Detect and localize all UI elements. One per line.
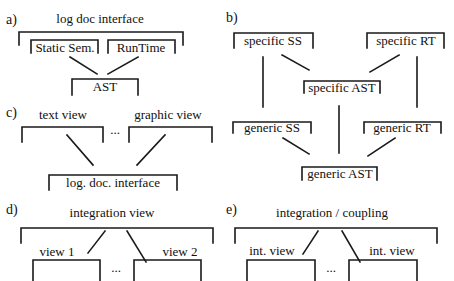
panel-e-label: e) (226, 202, 237, 218)
generic-rt-label: generic RT (373, 120, 430, 135)
view-1-label: view 1 (39, 244, 74, 259)
panel-b: b) specific SS specific RT specific AST … (226, 10, 444, 181)
view-2-label: view 2 (162, 244, 197, 259)
ellipsis: ... (111, 260, 121, 275)
specific-rt-label: specific RT (376, 33, 436, 48)
panel-c: c) text view ... graphic view log. doc. … (6, 105, 212, 190)
connector-line (342, 231, 360, 262)
graphic-view-label: graphic view (134, 107, 202, 122)
connector-line (370, 55, 399, 72)
panel-a: a) log doc interface Static Sem. RunTime… (6, 11, 183, 95)
int-view-1-bracket (247, 260, 315, 281)
panel-a-label: a) (6, 12, 17, 28)
panel-b-label: b) (226, 10, 238, 26)
ellipsis: ... (110, 122, 120, 137)
panel-c-label: c) (6, 105, 17, 121)
runtime-label: RunTime (117, 40, 166, 55)
log-doc-interface-label: log doc interface (56, 11, 144, 26)
integration-coupling-bracket (235, 228, 437, 243)
view-1-bracket (33, 260, 100, 281)
int-view-2-bracket (349, 260, 417, 281)
integration-view-label: integration view (70, 205, 155, 220)
integration-coupling-label: integration / coupling (276, 205, 388, 220)
connector-line (282, 55, 309, 70)
text-view-label: text view (39, 107, 88, 122)
panel-e: e) integration / coupling int. view ... … (226, 202, 437, 281)
ellipsis: ... (326, 260, 336, 275)
connector-line (70, 57, 97, 74)
specific-ast-label: specific AST (308, 80, 376, 95)
layered-architecture-diagram: a) log doc interface Static Sem. RunTime… (0, 0, 454, 281)
generic-ss-label: generic SS (244, 120, 300, 135)
panel-d: d) integration view view 1 ... view 2 (6, 202, 213, 281)
graphic-view-bracket (129, 127, 212, 142)
connector-line (127, 231, 146, 262)
int-view-1-label: int. view (249, 243, 295, 258)
connector-line (108, 57, 138, 74)
view-2-bracket (134, 260, 201, 281)
connector-line (283, 138, 309, 154)
int-view-2-label: int. view (369, 243, 415, 258)
static-sem-label: Static Sem. (35, 40, 94, 55)
connector-line (368, 138, 395, 156)
ast-label: AST (93, 79, 118, 94)
generic-ast-label: generic AST (307, 166, 372, 181)
log-doc-interface-label: log. doc. interface (66, 175, 160, 190)
panel-d-label: d) (6, 202, 18, 218)
connector-line (137, 135, 165, 165)
connector-line (67, 135, 93, 165)
specific-ss-label: specific SS (244, 33, 302, 48)
text-view-bracket (22, 127, 103, 142)
connector-line (88, 231, 105, 253)
connector-line (303, 231, 318, 254)
integration-view-bracket (21, 228, 213, 243)
